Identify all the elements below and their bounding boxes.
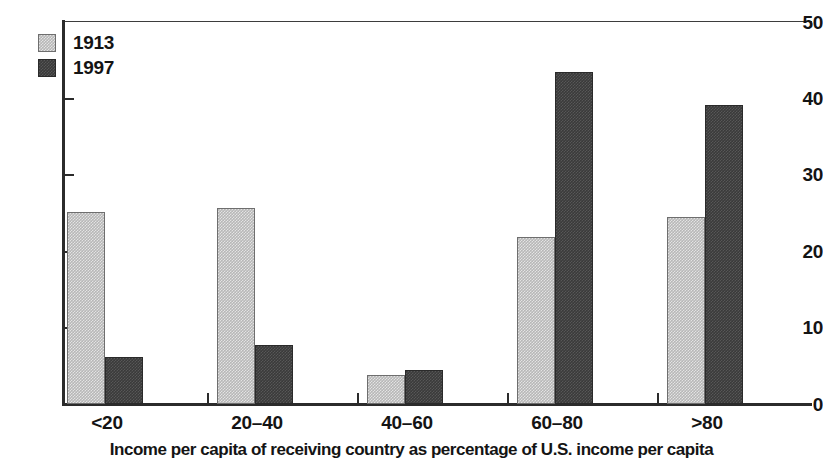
legend-item-1997[interactable]: 1997 bbox=[38, 55, 114, 80]
x-category-label-40-60: 40–60 bbox=[367, 413, 447, 432]
x-category-label-gt80: >80 bbox=[667, 413, 747, 432]
x-category-label-lt20: <20 bbox=[67, 413, 147, 432]
bar-1913-40-60[interactable] bbox=[367, 375, 405, 404]
bar-1913-20-40[interactable] bbox=[217, 208, 255, 404]
bar-1997-60-80[interactable] bbox=[555, 72, 593, 404]
bar-1997-lt20[interactable] bbox=[105, 357, 143, 404]
bar-1997-gt80[interactable] bbox=[705, 105, 743, 404]
legend: 1913 1997 bbox=[38, 30, 114, 80]
bar-1913-60-80[interactable] bbox=[517, 237, 555, 404]
legend-swatch-1997-icon bbox=[38, 59, 56, 77]
bar-chart-figure: 50 40 30 20 10 0 <20 20–40 40–60 60–80 >… bbox=[0, 0, 823, 467]
bar-1913-gt80[interactable] bbox=[667, 217, 705, 404]
bar-1913-lt20[interactable] bbox=[67, 212, 105, 404]
x-axis-caption: Income per capita of receiving country a… bbox=[0, 441, 823, 458]
x-category-label-60-80: 60–80 bbox=[517, 413, 597, 432]
bar-1997-40-60[interactable] bbox=[405, 370, 443, 404]
legend-label-1913: 1913 bbox=[73, 33, 114, 52]
legend-item-1913[interactable]: 1913 bbox=[38, 30, 114, 55]
legend-label-1997: 1997 bbox=[73, 58, 114, 77]
bar-1997-20-40[interactable] bbox=[255, 345, 293, 404]
legend-swatch-1913-icon bbox=[38, 34, 56, 52]
plot-area bbox=[63, 22, 812, 404]
x-category-label-20-40: 20–40 bbox=[217, 413, 297, 432]
